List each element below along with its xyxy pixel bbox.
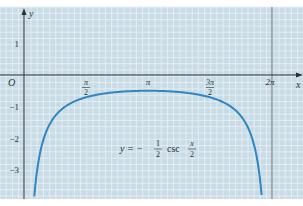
x-axis-label: x [295,79,301,90]
origin-label: O [8,77,15,88]
y-tick-label: −1 [9,102,19,112]
equation-func: csc [167,143,180,154]
y-tick-label: −3 [9,165,19,175]
y-tick-label: 1 [15,39,20,49]
x-tick-label: 2π [265,77,275,87]
x-tick-label: π [146,77,151,87]
equation-frac-den: 2 [156,150,160,159]
equation-arg-num: x [189,139,194,148]
y-axis-label: y [28,8,34,19]
chart: yxOπ2π3π22π1−1−2−3 y = −12cscx2 [0,0,303,206]
plot-background [0,7,303,199]
equation-prefix: y = − [119,143,143,154]
equation-arg-den: 2 [190,150,194,159]
x-tick-label-den: 2 [84,88,88,97]
y-tick-label: −2 [9,134,19,144]
equation-frac-num: 1 [156,139,160,148]
x-tick-label-num: 3π [205,78,215,87]
x-tick-label-den: 2 [208,88,212,97]
